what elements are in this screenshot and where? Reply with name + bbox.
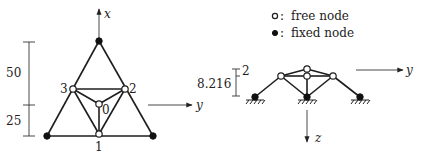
top-view: x y 50 25 bbox=[6, 7, 203, 154]
fixed-node-bottom-right bbox=[150, 133, 156, 139]
side-dimension-bar bbox=[232, 69, 240, 96]
legend-free-icon bbox=[272, 13, 277, 18]
node-label-3: 3 bbox=[60, 82, 68, 96]
side-free-node-top bbox=[304, 66, 310, 72]
side-view: 2 8.216 bbox=[197, 63, 413, 145]
side-fixed-node-left bbox=[252, 94, 258, 100]
x-axis-label: x bbox=[104, 7, 111, 21]
dimension-bar bbox=[23, 42, 35, 136]
legend-free-sep: : bbox=[280, 9, 284, 23]
legend-free-label: free node bbox=[291, 9, 349, 23]
free-node-2 bbox=[122, 86, 128, 92]
side-fixed-node-right bbox=[357, 94, 363, 100]
dimension-2: 2 bbox=[242, 64, 250, 78]
node-label-0: 0 bbox=[102, 103, 110, 117]
y-axis-label: y bbox=[195, 98, 203, 112]
legend: : free node : fixed node bbox=[272, 9, 354, 40]
legend-fixed-label: fixed node bbox=[291, 26, 354, 40]
legend-fixed-icon bbox=[272, 30, 277, 35]
fixed-node-top bbox=[96, 38, 102, 44]
node-label-1: 1 bbox=[95, 140, 103, 154]
side-y-axis-label: y bbox=[405, 63, 413, 77]
fixed-node-bottom-left bbox=[44, 133, 50, 139]
dimension-50: 50 bbox=[6, 66, 21, 80]
side-fixed-node-center bbox=[304, 94, 310, 100]
side-free-node-right bbox=[330, 73, 336, 79]
z-axis-label: z bbox=[314, 131, 322, 145]
free-node-1 bbox=[96, 131, 102, 137]
node-label-2: 2 bbox=[129, 82, 137, 96]
side-free-node-center bbox=[304, 73, 310, 79]
side-free-node-left bbox=[278, 73, 284, 79]
dimension-8216: 8.216 bbox=[197, 77, 231, 91]
truss-diagram: x y 50 25 bbox=[0, 0, 421, 156]
free-node-3 bbox=[70, 86, 76, 92]
legend-fixed-sep: : bbox=[280, 26, 284, 40]
dimension-25: 25 bbox=[6, 114, 21, 128]
